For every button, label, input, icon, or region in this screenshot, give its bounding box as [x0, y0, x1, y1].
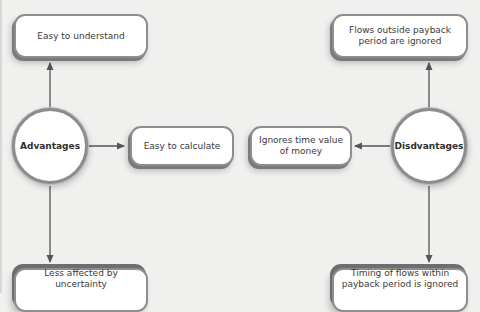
hub-label: Disdvantages: [395, 141, 464, 151]
node-easy-to-understand: Easy to understand: [14, 14, 148, 58]
node-easy-to-calculate: Easy to calculate: [130, 126, 234, 166]
node-label: Ignores time value of money: [259, 135, 343, 157]
node-label: Easy to calculate: [144, 141, 221, 152]
hub-advantages: Advantages: [12, 108, 88, 184]
node-less-affected-by-uncertainty: Less affected by uncertainty: [14, 268, 148, 312]
node-label: Easy to understand: [37, 31, 124, 42]
node-timing-of-flows-within-payback: Timing of flows within payback period is…: [332, 268, 468, 312]
hub-label: Advantages: [20, 141, 80, 151]
node-label: Less affected by uncertainty: [22, 268, 140, 290]
hub-disadvantages: Disdvantages: [391, 108, 467, 184]
node-label: Flows outside payback period are ignored: [341, 25, 459, 47]
node-ignores-time-value-of-money: Ignores time value of money: [250, 126, 352, 166]
node-flows-outside-payback-period: Flows outside payback period are ignored: [332, 14, 468, 58]
node-label: Timing of flows within payback period is…: [341, 268, 459, 290]
